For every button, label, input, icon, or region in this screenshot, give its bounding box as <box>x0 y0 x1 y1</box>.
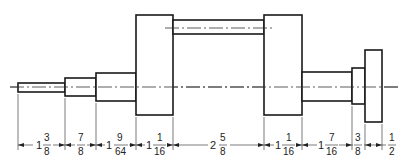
svg-text:8: 8 <box>220 146 226 157</box>
shaft-drawing: 1 3 8 7 8 1 9 64 1 1 16 2 5 8 1 1 16 1 7 <box>0 0 407 167</box>
svg-text:5: 5 <box>220 132 226 143</box>
svg-text:1: 1 <box>146 139 152 151</box>
svg-text:3: 3 <box>44 132 50 143</box>
svg-text:16: 16 <box>326 146 338 157</box>
right-shaft <box>302 72 352 101</box>
svg-text:7: 7 <box>78 132 84 143</box>
svg-text:1: 1 <box>106 139 112 151</box>
svg-text:1: 1 <box>275 139 281 151</box>
shaft-end-small <box>18 83 65 92</box>
crank-pin-rod <box>173 20 264 34</box>
svg-text:1: 1 <box>286 132 292 143</box>
svg-text:16: 16 <box>283 146 295 157</box>
svg-text:1: 1 <box>389 132 395 143</box>
svg-text:1: 1 <box>157 132 163 143</box>
svg-text:3: 3 <box>355 132 361 143</box>
svg-text:8: 8 <box>78 146 84 157</box>
left-web-block <box>136 15 173 115</box>
collar <box>352 68 365 104</box>
right-web-block <box>264 15 302 115</box>
svg-text:16: 16 <box>154 146 166 157</box>
end-disc <box>365 50 382 122</box>
svg-text:2: 2 <box>389 146 395 157</box>
svg-text:7: 7 <box>329 132 335 143</box>
svg-text:1: 1 <box>318 139 324 151</box>
svg-text:1: 1 <box>36 139 42 151</box>
svg-text:9: 9 <box>117 132 123 143</box>
svg-text:8: 8 <box>355 146 361 157</box>
svg-text:2: 2 <box>210 139 216 151</box>
svg-text:64: 64 <box>115 146 127 157</box>
svg-text:8: 8 <box>44 146 50 157</box>
